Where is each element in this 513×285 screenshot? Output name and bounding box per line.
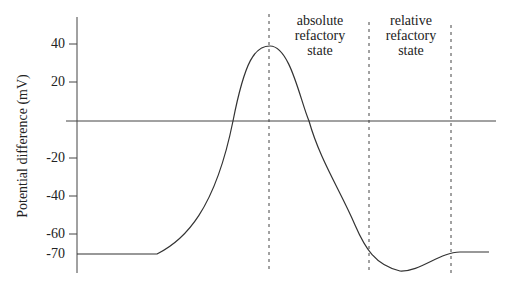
relative-refractory-label: relative refactory state xyxy=(366,13,456,58)
region-line: relative xyxy=(366,13,456,28)
region-line: state xyxy=(366,43,456,58)
region-line: state xyxy=(275,43,365,58)
region-line: absolute xyxy=(275,13,365,28)
y-axis-label: Potential difference (mV) xyxy=(15,61,31,231)
tick-label-40: 40 xyxy=(25,36,65,52)
tick-label-neg20: -20 xyxy=(25,150,65,166)
tick-label-neg60: -60 xyxy=(25,226,65,242)
action-potential-curve xyxy=(77,46,489,271)
region-line: refactory xyxy=(366,28,456,43)
tick-label-neg40: -40 xyxy=(25,188,65,204)
tick-label-20: 20 xyxy=(25,74,65,90)
tick-label-neg70: -70 xyxy=(25,246,65,262)
y-ticks xyxy=(69,44,77,234)
region-line: refactory xyxy=(275,28,365,43)
absolute-refractory-label: absolute refactory state xyxy=(275,13,365,58)
